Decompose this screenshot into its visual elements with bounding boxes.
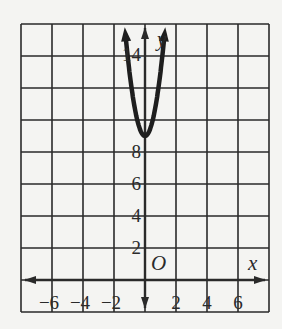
x-tick-label: 4 [202,292,212,313]
y-axis-down-arrow-icon [141,297,149,309]
tick-labels: −6−4−2246246814Oxy [39,27,258,313]
parabola-chart: −6−4−2246246814Oxy [0,0,282,329]
axes [24,27,266,309]
y-axis-label: y [155,27,167,51]
x-axis-label: x [247,251,258,275]
y-tick-label: 2 [132,237,142,258]
y-tick-label: 14 [122,44,142,65]
origin-label: O [151,251,166,275]
y-axis-up-arrow-icon [141,27,149,39]
x-tick-label: 6 [233,292,243,313]
x-tick-label: −2 [101,292,121,313]
x-tick-label: −6 [39,292,59,313]
y-tick-label: 6 [132,173,142,194]
x-tick-label: 2 [171,292,181,313]
x-tick-label: −4 [70,292,91,313]
x-axis-right-arrow-icon [254,276,266,284]
y-tick-label: 8 [132,141,142,162]
x-axis-left-arrow-icon [24,276,36,284]
curve-left-arrow-icon [121,27,131,41]
y-tick-label: 4 [132,205,142,226]
